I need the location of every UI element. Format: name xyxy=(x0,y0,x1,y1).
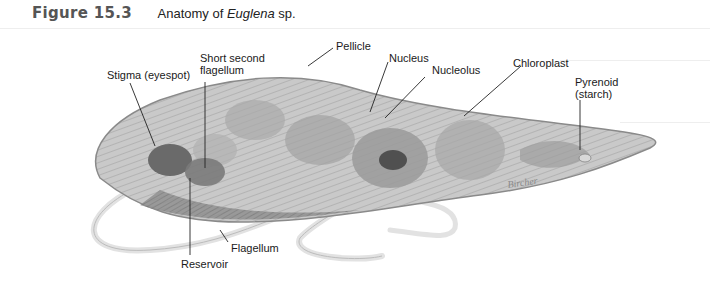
label-flagellum: Flagellum xyxy=(231,242,279,254)
label-chloroplast: Chloroplast xyxy=(513,57,569,69)
label-nucleolus: Nucleolus xyxy=(432,64,480,76)
label-nucleus: Nucleus xyxy=(389,52,429,64)
label-pyrenoid-line1: Pyrenoid xyxy=(575,76,618,88)
label-short-second-flagellum-line1: Short second xyxy=(200,52,265,64)
label-short-second-flagellum-line2: flagellum xyxy=(200,64,244,76)
label-stigma-eyespot: Stigma (eyespot) xyxy=(107,69,190,81)
label-pellicle: Pellicle xyxy=(336,40,371,52)
label-pyrenoid-line2: (starch) xyxy=(575,88,612,100)
label-reservoir: Reservoir xyxy=(181,258,228,270)
